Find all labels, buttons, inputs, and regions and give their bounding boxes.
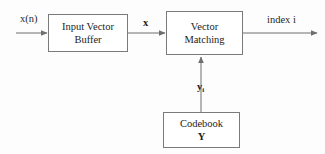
block-codebook-line1: Codebook <box>180 117 223 130</box>
block-vector-matching-line1: Vector <box>191 20 218 33</box>
block-codebook: Codebook Y <box>163 112 240 148</box>
label-codeword-subscript: i <box>202 86 204 94</box>
block-input-vector-buffer-line2: Buffer <box>74 33 101 46</box>
block-vector-matching-line2: Matching <box>184 33 224 46</box>
label-output-index: index i <box>267 15 296 26</box>
block-diagram: Input Vector Buffer Vector Matching Code… <box>0 0 325 154</box>
label-vector-x: x <box>143 18 148 29</box>
block-input-vector-buffer-line1: Input Vector <box>62 20 114 33</box>
block-input-vector-buffer: Input Vector Buffer <box>48 14 128 52</box>
label-input-signal: x(n) <box>20 14 38 25</box>
label-codeword-yi: yi <box>197 82 204 93</box>
block-vector-matching: Vector Matching <box>166 11 243 55</box>
block-codebook-symbol: Y <box>198 130 206 143</box>
